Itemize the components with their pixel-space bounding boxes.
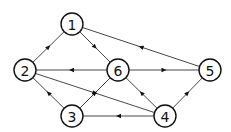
node-2: 2 <box>14 59 36 81</box>
edge-2-to-4 <box>35 73 154 112</box>
node-label: 5 <box>206 63 215 79</box>
node-4: 4 <box>154 105 176 127</box>
edge-6-to-2 <box>36 68 107 72</box>
node-1: 1 <box>61 13 83 35</box>
edge-5-to-1 <box>82 27 199 66</box>
edge-2-to-1 <box>33 32 64 63</box>
node-label: 6 <box>114 63 123 79</box>
edge-1-to-6 <box>80 32 110 62</box>
node-label: 3 <box>68 109 77 125</box>
node-label: 4 <box>161 109 170 125</box>
arrowhead-icon <box>69 68 74 72</box>
arrowhead-icon <box>162 68 167 72</box>
node-5: 5 <box>199 59 221 81</box>
node-label: 2 <box>21 63 30 79</box>
arrowhead-icon <box>92 90 97 94</box>
edge-4-to-6 <box>126 78 157 109</box>
edge-6-to-5 <box>129 68 199 72</box>
node-6: 6 <box>107 59 129 81</box>
arrowhead-icon <box>116 114 121 118</box>
node-3: 3 <box>61 105 83 127</box>
edge-4-to-3 <box>83 114 154 118</box>
directed-graph: 126534 <box>0 0 231 132</box>
arrowhead-icon <box>139 46 144 50</box>
edge-3-to-2 <box>33 78 64 109</box>
edge-4-to-5 <box>173 78 203 108</box>
node-label: 1 <box>68 17 77 33</box>
